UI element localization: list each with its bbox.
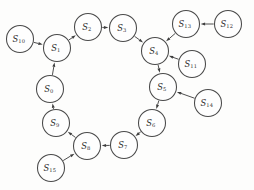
node-s11[interactable]: S11 [179,51,206,78]
arrow-head-icon [169,56,174,59]
state-diagram-canvas: S0S1S2S3S4S5S6S7S8S9S10S11S12S13S14S15 [0,0,254,190]
edge-s12-to-s13 [201,23,214,26]
arrow-head-icon [70,154,75,158]
edge-s4-to-s5 [157,65,160,73]
node-s10[interactable]: S10 [7,26,34,53]
edge-s1-to-s2 [69,35,76,40]
arrow-head-icon [52,103,55,108]
edge-s9-to-s0 [52,103,55,108]
node-s14[interactable]: S14 [195,90,222,117]
edge-s5-to-s6 [156,101,159,109]
arrow-head-icon [102,144,106,147]
arrow-head-icon [156,104,159,109]
arrow-head-icon [177,92,182,95]
node-s15[interactable]: S15 [38,155,65,182]
nodes-layer: S0S1S2S3S4S5S6S7S8S9S10S11S12S13S14S15 [7,11,242,182]
node-s7[interactable]: S7 [111,132,138,159]
edge-s0-to-s1 [52,62,55,74]
graph-svg: S0S1S2S3S4S5S6S7S8S9S10S11S12S13S14S15 [0,0,254,190]
arrow-head-icon [201,23,205,26]
arrow-head-icon [52,62,55,67]
edge-s7-to-s8 [102,144,110,147]
node-s4[interactable]: S4 [142,38,169,65]
edge-s10-to-s1 [34,42,43,45]
arrow-head-icon [157,68,160,73]
edge-s6-to-s7 [136,132,141,136]
node-s2[interactable]: S2 [75,14,102,41]
node-s9[interactable]: S9 [43,110,70,137]
node-s6[interactable]: S6 [139,110,166,137]
edge-s15-to-s8 [63,154,74,161]
node-s1[interactable]: S1 [44,35,71,62]
node-s8[interactable]: S8 [74,133,101,160]
arrow-head-icon [38,42,43,45]
edge-s8-to-s9 [68,132,76,138]
edge-s13-to-s4 [166,33,175,41]
node-s13[interactable]: S13 [173,11,200,38]
arrow-head-icon [104,26,108,29]
node-s12[interactable]: S12 [215,11,242,38]
edge-s2-to-s3 [102,26,108,29]
edge-s14-to-s5 [177,92,195,98]
node-s3[interactable]: S3 [110,15,137,42]
node-s5[interactable]: S5 [150,74,177,101]
edge-s11-to-s4 [169,56,179,59]
node-s0[interactable]: S0 [37,76,64,103]
edge-s3-to-s4 [135,36,143,42]
